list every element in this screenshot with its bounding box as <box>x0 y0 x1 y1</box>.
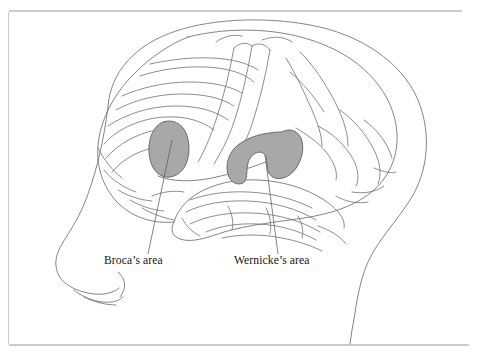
precentral-cap <box>234 43 252 48</box>
brocas-area-label: Broca’s area <box>104 254 163 267</box>
frontal-base-fold <box>142 208 174 220</box>
temporal-base-fold <box>222 235 322 251</box>
occipital-fold-b <box>374 168 396 173</box>
precentral-gyrus <box>198 48 234 162</box>
vertex-fold-b <box>262 37 292 42</box>
area-labels: Broca’s area Wernicke’s area <box>104 254 310 267</box>
postcentral-cap <box>252 44 270 50</box>
frontal-pole-fold-a <box>98 148 122 178</box>
wernickes-area-label: Wernicke’s area <box>234 254 310 267</box>
wernickes-region[interactable] <box>227 130 303 184</box>
orbital-gyrus-fold <box>112 148 152 172</box>
temporal-lobe-outline <box>174 180 344 228</box>
frontal-operculum-fold <box>152 191 184 196</box>
upper-lip-line <box>84 297 116 305</box>
angular-gyrus <box>318 126 358 186</box>
superior-frontal-sulcus <box>150 58 258 70</box>
middle-frontal-gyrus-fold <box>116 94 234 110</box>
temporal-notch-c <box>298 216 303 238</box>
pars-triangularis-fold <box>106 130 156 158</box>
parietal-lobe-gyri <box>286 52 396 203</box>
figure-page: Broca’s area Wernicke’s area <box>0 0 479 354</box>
temporal-notch-b <box>266 208 271 234</box>
superior-frontal-gyrus-fold <box>140 67 254 82</box>
parietal-occipital-fold <box>340 110 380 184</box>
superior-temporal-sulcus <box>190 192 312 208</box>
brocas-region[interactable] <box>149 121 189 177</box>
occipital-fold-c <box>352 186 384 193</box>
brain-diagram-figure: Broca’s area Wernicke’s area <box>0 0 479 354</box>
parietal-upper-fold <box>290 72 324 112</box>
mouth-curve <box>118 272 125 297</box>
occipital-pole-fold <box>336 196 368 203</box>
superior-temporal-gyrus-fold <box>186 201 316 220</box>
vertex-fold-a <box>216 35 242 42</box>
temporal-lobe-gyri <box>182 192 346 251</box>
cerebellum-edge <box>318 226 346 244</box>
frontal-pole-fold-b <box>104 170 136 192</box>
temporal-notch-a <box>228 206 233 230</box>
